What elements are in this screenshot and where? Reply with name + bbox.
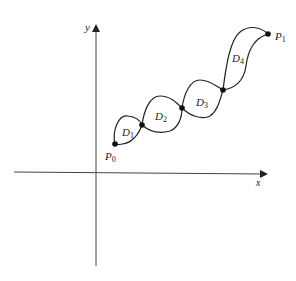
point-junction-1	[139, 122, 145, 128]
y-axis-label: y	[84, 21, 90, 33]
label-d1: D1	[121, 126, 134, 140]
point-junction-2	[179, 105, 185, 111]
region-d4-boundary-lower	[223, 34, 268, 90]
x-axis-label: x	[255, 177, 261, 188]
x-axis	[14, 172, 264, 174]
label-d3: D3	[195, 96, 208, 110]
point-p1	[265, 31, 271, 37]
diagram-svg: y x P0 P1 D1 D2 D3 D4	[0, 0, 296, 281]
label-d2: D2	[154, 110, 167, 124]
label-p1: P1	[274, 30, 286, 44]
point-junction-3	[220, 87, 226, 93]
diagram-canvas: y x P0 P1 D1 D2 D3 D4	[0, 0, 296, 281]
point-p0	[112, 141, 118, 147]
label-d4: D4	[231, 52, 244, 66]
label-p0: P0	[104, 150, 116, 164]
